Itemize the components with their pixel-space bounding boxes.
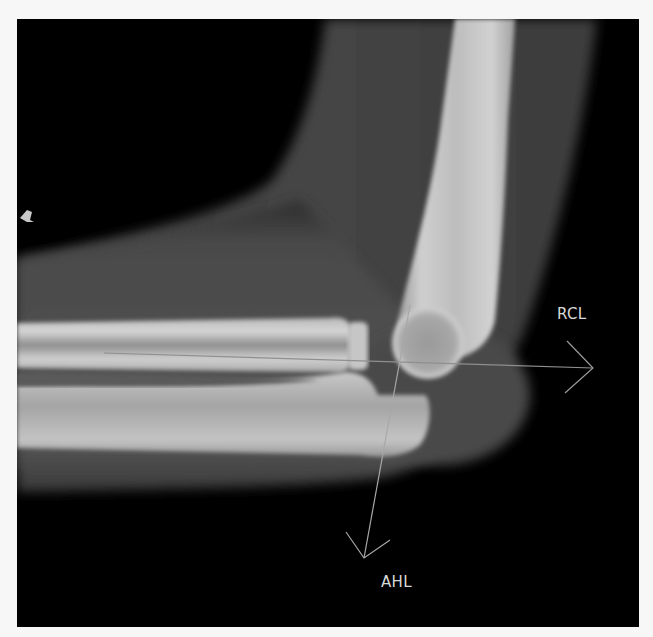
- xray-image: RCL AHL: [17, 19, 639, 627]
- rcl-label: RCL: [557, 305, 586, 323]
- radius: [17, 318, 352, 373]
- xray-svg: [17, 19, 639, 627]
- ahl-label: AHL: [381, 573, 412, 591]
